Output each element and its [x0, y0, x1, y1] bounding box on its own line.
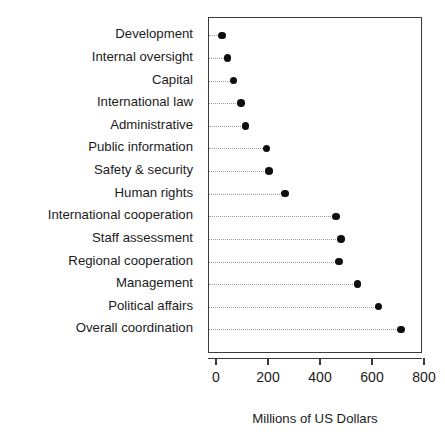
category-label: Development — [0, 27, 193, 40]
data-point — [263, 145, 271, 153]
category-label: Staff assessment — [0, 231, 193, 244]
x-axis-tick-label: 400 — [290, 369, 350, 385]
data-point — [375, 303, 383, 311]
category-label: Regional cooperation — [0, 254, 193, 267]
category-label: Internal oversight — [0, 50, 193, 63]
x-axis-tick-label: 600 — [342, 369, 402, 385]
guide-line — [209, 284, 355, 286]
guide-line — [209, 103, 238, 105]
guide-line — [209, 194, 282, 196]
guide-line — [209, 81, 230, 83]
data-point — [397, 326, 405, 334]
category-label: Management — [0, 276, 193, 289]
category-label: Political affairs — [0, 299, 193, 312]
data-point — [230, 77, 238, 85]
category-label: Human rights — [0, 186, 193, 199]
guide-line — [209, 216, 333, 218]
x-axis-tick-label: 200 — [238, 369, 298, 385]
x-axis-tick-label: 800 — [394, 369, 445, 385]
guide-line — [209, 126, 243, 128]
x-axis-tick — [423, 358, 424, 365]
data-point — [337, 235, 345, 243]
data-point — [354, 280, 362, 288]
guide-line — [209, 329, 398, 331]
data-point — [224, 54, 232, 62]
data-point — [332, 213, 340, 221]
plot-panel — [208, 17, 422, 353]
guide-line — [209, 148, 263, 150]
guide-line — [209, 58, 224, 60]
x-axis-title: Millions of US Dollars — [208, 411, 422, 426]
data-point — [265, 167, 273, 175]
x-axis-tick — [215, 358, 216, 365]
category-label: Overall coordination — [0, 321, 193, 334]
x-axis-line — [208, 358, 422, 359]
x-axis-tick-label: 0 — [186, 369, 246, 385]
guide-line — [209, 239, 338, 241]
category-label: International law — [0, 95, 193, 108]
x-axis-tick — [319, 358, 320, 365]
plot-area — [209, 18, 421, 352]
category-label: International cooperation — [0, 208, 193, 221]
guide-line — [209, 171, 266, 173]
category-axis-labels: DevelopmentInternal oversightCapitalInte… — [0, 0, 195, 360]
x-axis-tick — [267, 358, 268, 365]
category-label: Capital — [0, 73, 193, 86]
guide-line — [209, 262, 336, 264]
category-label: Public information — [0, 140, 193, 153]
data-point — [335, 258, 343, 266]
data-point — [218, 32, 226, 40]
data-point — [237, 99, 245, 107]
category-label: Safety & security — [0, 163, 193, 176]
x-axis-tick — [371, 358, 372, 365]
data-point — [242, 122, 250, 130]
guide-line — [209, 307, 376, 309]
dot-plot-chart: DevelopmentInternal oversightCapitalInte… — [0, 0, 445, 441]
category-label: Administrative — [0, 118, 193, 131]
data-point — [281, 190, 289, 198]
